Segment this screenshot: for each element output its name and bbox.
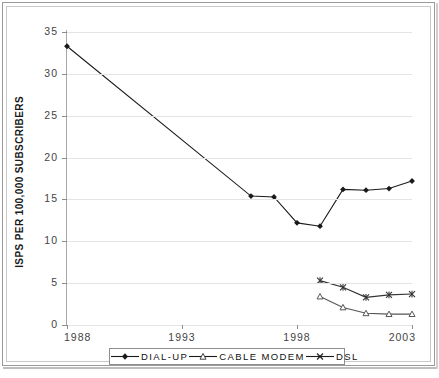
x-tick-mark bbox=[412, 325, 413, 329]
legend-label-dsl: DSL bbox=[336, 351, 359, 362]
x-tick-mark bbox=[182, 325, 183, 329]
y-tick-mark bbox=[62, 158, 67, 159]
y-tick-label: 30 bbox=[44, 67, 58, 79]
x-tick-label: 2003 bbox=[389, 331, 416, 343]
y-tick-label: 5 bbox=[51, 276, 58, 288]
x-tick-label: 1998 bbox=[283, 331, 310, 343]
legend-label-cable-modem: CABLE MODEM bbox=[219, 351, 305, 362]
y-tick-mark bbox=[62, 74, 67, 75]
gridline bbox=[67, 325, 412, 326]
legend-label-dial-up: DIAL-UP bbox=[141, 351, 188, 362]
gridline bbox=[67, 241, 412, 242]
x-tick-label: 1988 bbox=[64, 331, 91, 343]
y-tick-mark bbox=[62, 241, 67, 242]
x-tick-mark bbox=[67, 325, 68, 329]
legend-item-dsl: DSL bbox=[305, 351, 359, 362]
y-tick-mark bbox=[62, 199, 67, 200]
series-dial-up bbox=[64, 43, 415, 229]
gridline bbox=[67, 283, 412, 284]
y-tick-label: 10 bbox=[44, 234, 58, 246]
y-tick-label: 35 bbox=[44, 25, 58, 37]
dial-up-marker-icon bbox=[110, 351, 140, 362]
y-axis-title: ISPS PER 100,000 SUBSCRIBERS bbox=[14, 96, 30, 268]
y-tick-mark bbox=[62, 116, 67, 117]
dsl-marker-icon bbox=[305, 351, 335, 362]
y-tick-label: 0 bbox=[51, 318, 58, 330]
legend-item-dial-up: DIAL-UP bbox=[110, 351, 188, 362]
chart-figure: ISPS PER 100,000 SUBSCRIBERS 05101520253… bbox=[0, 0, 439, 378]
y-tick-label: 20 bbox=[44, 151, 58, 163]
gridline bbox=[67, 74, 412, 75]
x-tick-mark bbox=[297, 325, 298, 329]
frame-shadow-right bbox=[436, 3, 438, 369]
plot-area bbox=[67, 32, 412, 325]
y-tick-label: 15 bbox=[44, 192, 58, 204]
chart-legend: DIAL-UP CABLE MODEM DSL bbox=[109, 348, 345, 365]
cable-modem-marker-icon bbox=[188, 351, 218, 362]
gridline bbox=[67, 199, 412, 200]
y-tick-label: 25 bbox=[44, 109, 58, 121]
y-tick-mark bbox=[62, 32, 67, 33]
data-series-layer bbox=[67, 32, 412, 325]
x-tick-label: 1993 bbox=[168, 331, 195, 343]
y-tick-mark bbox=[62, 283, 67, 284]
gridline bbox=[67, 32, 412, 33]
frame-shadow-bottom bbox=[3, 367, 437, 369]
gridline bbox=[67, 158, 412, 159]
series-dsl bbox=[317, 277, 415, 301]
gridline bbox=[67, 116, 412, 117]
legend-item-cable-modem: CABLE MODEM bbox=[188, 351, 305, 362]
